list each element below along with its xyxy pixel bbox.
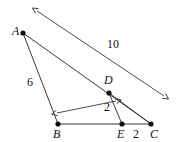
vertex-label-A: A (12, 25, 19, 37)
point-B (55, 121, 60, 126)
dimension-label-10: 10 (107, 38, 119, 50)
vertex-label-D: D (104, 74, 113, 86)
side-label-EC-2: 2 (133, 128, 139, 140)
segment-layer (23, 33, 151, 124)
geometry-figure: A B C D E 10 2 6 2 (0, 0, 179, 142)
point-E (119, 121, 124, 126)
point-A (20, 30, 25, 35)
vertex-label-C: C (150, 128, 158, 140)
dimension-label-2-upper: 2 (104, 101, 110, 113)
dimension-layer (37, 11, 164, 113)
point-C (148, 121, 153, 126)
side-label-AB-6: 6 (27, 76, 33, 88)
dimension-line-10 (37, 11, 164, 96)
figure-canvas (0, 0, 179, 142)
vertex-label-E: E (117, 128, 124, 140)
vertex-label-B: B (53, 128, 60, 140)
point-D (106, 90, 111, 95)
